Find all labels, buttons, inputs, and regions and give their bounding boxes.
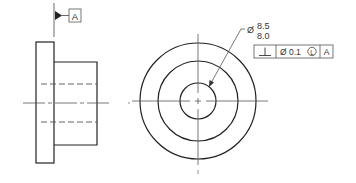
tolerance-symbol: Ø xyxy=(280,47,287,57)
datum-feature-symbol: A xyxy=(54,3,81,37)
front-view xyxy=(132,29,268,174)
upper-limit: 8.5 xyxy=(257,21,270,31)
datum-label: A xyxy=(72,11,79,22)
diameter-symbol: Ø xyxy=(247,25,254,35)
datum-triangle-icon xyxy=(55,11,62,20)
lower-limit: 8.0 xyxy=(257,31,270,41)
side-view: A xyxy=(23,3,130,163)
modifier-letter: L xyxy=(310,49,314,56)
feature-control-frame: Ø 0.1 L A xyxy=(254,45,333,58)
flange-outline xyxy=(36,42,54,163)
leader-arrowhead-icon xyxy=(209,80,214,87)
datum-reference: A xyxy=(324,47,330,57)
diameter-dimension: Ø 8.5 8.0 xyxy=(247,21,270,41)
hub-outline xyxy=(54,62,97,145)
technical-drawing: A Ø 8.5 8.0 xyxy=(0,0,356,183)
tolerance-value: 0.1 xyxy=(289,47,301,57)
